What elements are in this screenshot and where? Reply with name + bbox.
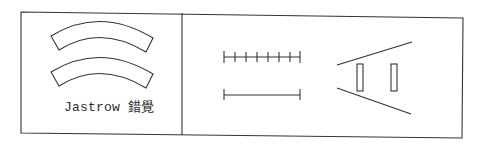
ruler-with-ticks [224, 51, 300, 63]
ponzo-illusion [337, 42, 412, 114]
ponzo-lower-line [337, 88, 411, 114]
figure-canvas [0, 0, 484, 147]
ponzo-rect-left [357, 64, 363, 91]
jastrow-arc-top [51, 21, 153, 52]
illusion-figure: Jastrow 錯覺 [0, 0, 484, 147]
ponzo-rect-right [391, 64, 397, 91]
jastrow-arc-bottom [51, 57, 153, 88]
jastrow-caption: Jastrow 錯覺 [64, 96, 154, 115]
ponzo-upper-line [337, 42, 412, 65]
ruler-plain [224, 89, 300, 100]
